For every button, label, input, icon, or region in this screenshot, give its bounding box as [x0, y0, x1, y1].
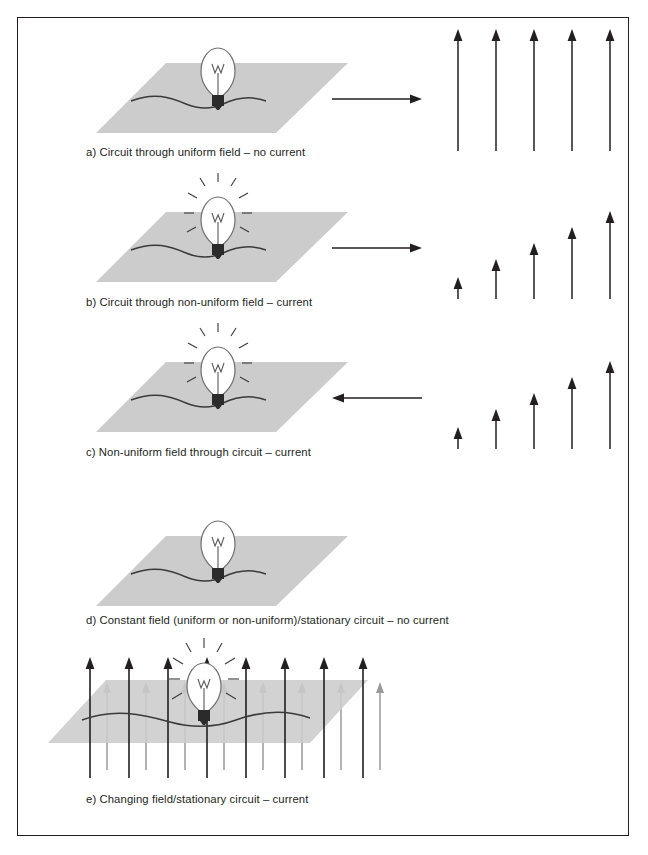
motion-arrow-left [332, 394, 422, 403]
panel-c: c) Non-uniform field through circuit – c… [18, 316, 630, 466]
bulb-base [212, 244, 224, 255]
field-arrow [530, 393, 539, 449]
field-arrow-tall [359, 657, 368, 778]
panel-d-caption: d) Constant field (uniform or non-unifor… [86, 614, 449, 626]
field-arrow [568, 377, 577, 449]
field-arrow [492, 259, 501, 299]
panel-b-graphic [18, 166, 630, 316]
panel-e-graphic [18, 638, 630, 837]
bulb-base [212, 568, 224, 579]
bulb-base [212, 95, 224, 106]
panel-d-graphic [18, 466, 630, 638]
panel-c-caption: c) Non-uniform field through circuit – c… [86, 446, 311, 458]
field-arrow [530, 243, 539, 299]
bulb-base [198, 710, 210, 721]
panel-b: b) Circuit through non-uniform field – c… [18, 166, 630, 316]
field-arrows-non-uniform [454, 211, 615, 299]
field-arrows-non-uniform [454, 361, 615, 449]
field-arrow [568, 29, 577, 151]
panel-e-caption: e) Changing field/stationary circuit – c… [86, 793, 308, 805]
field-arrow [568, 227, 577, 299]
bulb-base [212, 394, 224, 405]
panel-e: e) Changing field/stationary circuit – c… [18, 638, 630, 837]
panel-d: d) Constant field (uniform or non-unifor… [18, 466, 630, 638]
panel-b-caption: b) Circuit through non-uniform field – c… [86, 296, 312, 308]
panel-a: a) Circuit through uniform field – no cu… [18, 18, 630, 166]
field-arrow [606, 361, 615, 449]
field-arrow [606, 29, 615, 151]
motion-arrow-right [332, 244, 422, 253]
field-arrow [606, 211, 615, 299]
field-arrow-short [376, 682, 384, 770]
panel-c-graphic [18, 316, 630, 466]
figure-border: a) Circuit through uniform field – no cu… [17, 17, 629, 836]
field-arrow [454, 427, 463, 449]
field-arrow [454, 29, 463, 151]
field-arrow [454, 277, 463, 299]
field-arrow [530, 29, 539, 151]
field-arrow [492, 409, 501, 449]
field-arrow [492, 29, 501, 151]
field-arrows-uniform [454, 29, 615, 151]
panel-a-caption: a) Circuit through uniform field – no cu… [86, 146, 305, 158]
panel-a-graphic [18, 18, 630, 166]
motion-arrow-right [332, 95, 422, 104]
